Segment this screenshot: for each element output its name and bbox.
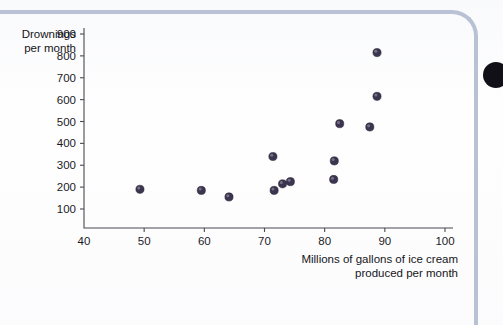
data-point-marker [278,180,286,188]
data-points-group [136,48,381,201]
y-tick-label-100: 100 [57,203,76,215]
data-point-4 [269,152,277,160]
data-point-highlight [280,181,283,184]
data-point-highlight [226,194,229,197]
data-point-marker [136,185,144,193]
scatter-plot-figure: 1002003004005006007008009004050607080901… [0,0,503,325]
x-tick-label-90: 90 [378,235,391,247]
data-point-marker [270,186,278,194]
data-point-6 [278,180,286,188]
axes-group [84,28,453,228]
x-tick-label-40: 40 [78,235,91,247]
data-point-highlight [288,179,291,182]
x-tick-label-60: 60 [198,235,211,247]
y-tick-label-600: 600 [57,94,76,106]
x-tick-label-80: 80 [318,235,331,247]
x-tick-label-100: 100 [435,235,454,247]
data-point-9 [330,157,338,165]
y-tick-label-500: 500 [57,116,76,128]
data-point-marker [225,193,233,201]
x-tick-label-50: 50 [138,235,151,247]
y-axis-title: Drownings per month [4,27,76,55]
data-point-marker [330,175,338,183]
data-point-13 [373,48,381,56]
data-point-marker [286,178,294,186]
data-point-highlight [332,158,335,161]
data-point-marker [197,186,205,194]
axis-lines [84,28,453,228]
x-axis-title: Millions of gallons of ice cream produce… [246,252,458,280]
data-point-marker [366,123,374,131]
data-point-2 [197,186,205,194]
data-point-5 [270,186,278,194]
y-tick-label-400: 400 [57,137,76,149]
data-point-marker [336,120,344,128]
data-point-marker [373,92,381,100]
y-tick-label-200: 200 [57,181,76,193]
data-point-highlight [270,154,273,157]
data-point-highlight [337,121,340,124]
data-point-highlight [137,187,140,190]
data-point-8 [330,175,338,183]
ticks-group: 1002003004005006007008009004050607080901… [57,28,455,247]
data-point-highlight [374,50,377,53]
data-point-marker [330,157,338,165]
data-point-11 [366,123,374,131]
y-tick-label-300: 300 [57,159,76,171]
data-point-1 [136,185,144,193]
data-point-3 [225,193,233,201]
data-point-10 [336,120,344,128]
x-tick-label-70: 70 [258,235,271,247]
data-point-marker [269,152,277,160]
data-point-marker [373,48,381,56]
data-point-12 [373,92,381,100]
data-point-highlight [271,188,274,191]
data-point-highlight [199,188,202,191]
data-point-highlight [367,124,370,127]
data-point-7 [286,178,294,186]
data-point-highlight [374,94,377,97]
y-tick-label-700: 700 [57,72,76,84]
data-point-highlight [331,177,334,180]
